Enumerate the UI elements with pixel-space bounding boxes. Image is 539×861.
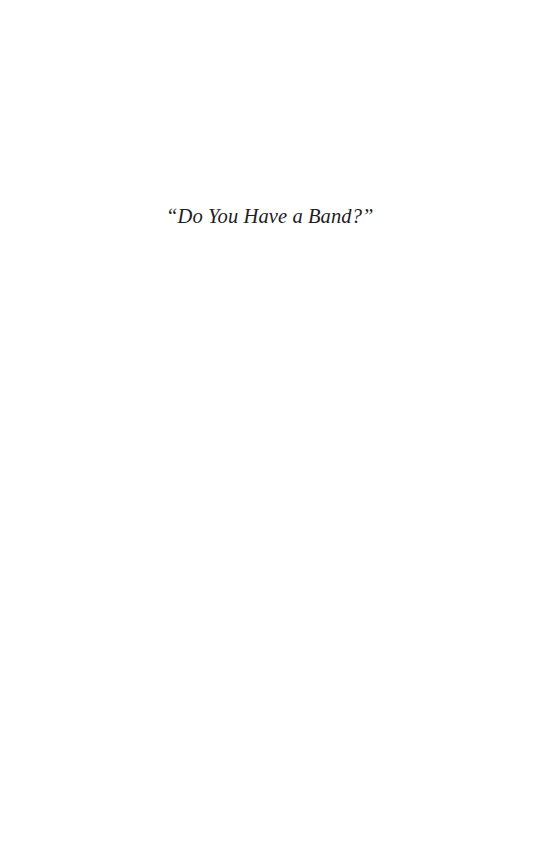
book-page: “Do You Have a Band?” — [0, 0, 539, 861]
half-title: “Do You Have a Band?” — [166, 202, 374, 230]
